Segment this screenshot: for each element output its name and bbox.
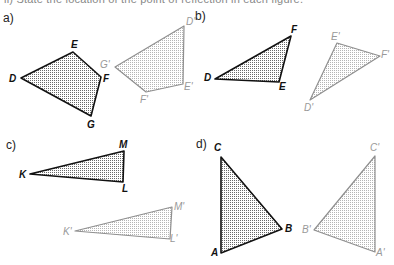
vertex-label: K xyxy=(19,170,26,180)
original-shape-d xyxy=(221,157,282,253)
reflected-shape-b xyxy=(310,43,380,100)
reflection-figures: ii) State the location of the point of r… xyxy=(0,0,394,265)
vertex-label: F xyxy=(103,74,109,84)
vertex-label: E xyxy=(71,40,78,50)
reflected-shape-a xyxy=(115,26,184,92)
vertex-label: C' xyxy=(370,143,379,153)
vertex-label: E xyxy=(279,82,286,92)
vertex-label: F' xyxy=(381,50,389,60)
vertex-label: B' xyxy=(302,225,311,235)
vertex-label: M' xyxy=(174,202,184,212)
vertex-label: B xyxy=(285,224,292,234)
vertex-label: G' xyxy=(100,60,110,70)
vertex-label: E' xyxy=(331,32,340,42)
vertex-label: L xyxy=(122,184,128,194)
part-label-a: a) xyxy=(3,11,14,25)
vertex-label: G xyxy=(87,120,95,130)
vertex-label: A' xyxy=(376,248,385,258)
vertex-label: A xyxy=(211,248,218,258)
vertex-label: M xyxy=(119,140,127,150)
original-shape-a xyxy=(21,52,101,116)
original-shape-c xyxy=(30,151,124,182)
vertex-label: F xyxy=(291,25,297,35)
original-shape-b xyxy=(215,36,291,82)
vertex-label: D' xyxy=(186,17,195,27)
vertex-label: D xyxy=(9,74,16,84)
vertex-label: K' xyxy=(63,227,72,237)
part-label-d: d) xyxy=(196,137,207,151)
vertex-label: E' xyxy=(184,82,193,92)
part-label-c: c) xyxy=(6,138,16,152)
vertex-label: D xyxy=(204,73,211,83)
vertex-label: D' xyxy=(304,103,313,113)
reflected-shape-c xyxy=(75,207,172,239)
part-label-b: b) xyxy=(195,9,206,23)
vertex-label: C xyxy=(214,143,221,153)
vertex-label: F' xyxy=(140,95,148,105)
vertex-label: L' xyxy=(170,234,177,244)
reflected-shape-d xyxy=(314,156,375,252)
